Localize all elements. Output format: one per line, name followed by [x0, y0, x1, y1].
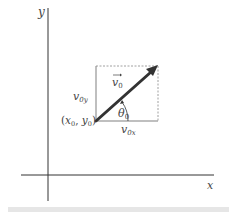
angle-label: θ0	[118, 107, 129, 121]
bottom-divider-bar	[8, 207, 229, 212]
vertical-component-label: v0y	[73, 90, 89, 104]
projectile-velocity-diagram: y x v0 v0y v0x θ0 (x0, y0)	[0, 0, 229, 215]
horizontal-component-label: v0x	[121, 123, 136, 137]
vector-label: v0	[112, 74, 123, 91]
x-axis-label: x	[207, 179, 214, 192]
origin-point-label: (x0, y0)	[61, 114, 96, 128]
svg-text:v0: v0	[112, 76, 123, 90]
y-axis-label: y	[37, 5, 45, 19]
